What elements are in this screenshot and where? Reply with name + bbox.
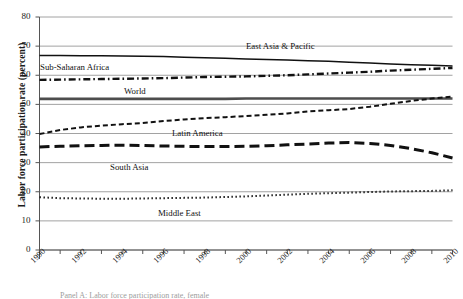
series-label-south-asia: South Asia (110, 162, 148, 172)
figure-container: Labor force participation rate (percent)… (0, 0, 463, 299)
series-label-east-asia: East Asia & Pacific (246, 41, 315, 51)
series-line-latin-america (40, 97, 453, 135)
figure-caption: Panel A: Labor force participation rate,… (60, 291, 390, 299)
series-label-sub-saharan-africa: Sub-Saharan Africa (40, 62, 109, 72)
series-line-south-asia (40, 143, 453, 158)
y-tick-label: 10 (7, 215, 31, 225)
y-tick-label: 60 (7, 69, 31, 79)
y-tick-label: 40 (7, 128, 31, 138)
series-label-latin-america: Latin America (172, 128, 223, 138)
series-label-middle-east: Middle East (158, 208, 201, 218)
y-tick-label: 20 (7, 186, 31, 196)
y-tick-label: 80 (7, 11, 31, 21)
y-tick-label: 30 (7, 157, 31, 167)
series-label-world: World (124, 86, 146, 96)
y-tick-label: 70 (7, 40, 31, 50)
chart-plot-area (0, 0, 463, 299)
y-tick-label: 50 (7, 98, 31, 108)
y-tick-label: 0 (7, 244, 31, 254)
